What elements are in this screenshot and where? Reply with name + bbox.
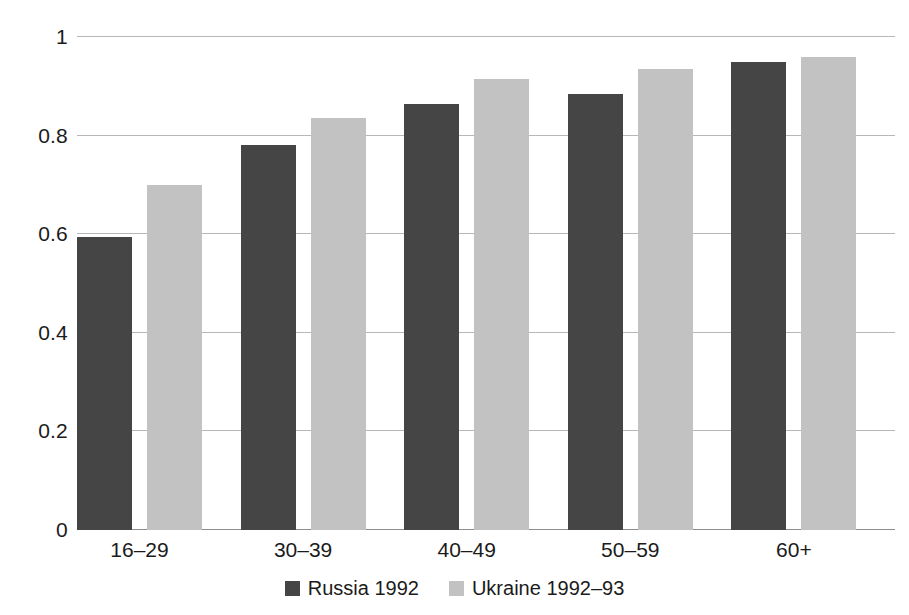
bar-russia-30-39 (241, 145, 296, 530)
bar-russia-60plus (731, 62, 786, 530)
bar-ukraine-16-29 (147, 185, 202, 530)
bar-ukraine-60plus (801, 57, 856, 530)
legend-swatch-icon-russia (285, 581, 300, 596)
y-tick-label: 0.8 (6, 124, 68, 145)
y-tick-label: 0.4 (6, 321, 68, 342)
y-tick-label: 0.2 (6, 420, 68, 441)
legend-label-ukraine: Ukraine 1992–93 (472, 578, 624, 598)
bar-ukraine-30-39 (311, 118, 366, 530)
legend-label-russia: Russia 1992 (308, 578, 419, 598)
gridline-1 (77, 36, 895, 37)
x-tick-label-50-59: 50–59 (601, 537, 659, 563)
legend-item-ukraine: Ukraine 1992–93 (449, 578, 624, 598)
bar-russia-40-49 (404, 104, 459, 530)
x-tick-label-16-29: 16–29 (110, 537, 168, 563)
x-axis-tick-labels: 16–29 30–39 40–49 50–59 60+ (77, 537, 895, 569)
bar-ukraine-40-49 (474, 79, 529, 530)
legend-swatch-icon-ukraine (449, 581, 464, 596)
y-tick-label: 0 (6, 519, 68, 540)
bar-chart: 1 0.8 0.6 0.4 0.2 0 16–29 30–39 40–49 (0, 0, 909, 615)
bar-ukraine-50-59 (638, 69, 693, 530)
y-axis-tick-labels: 1 0.8 0.6 0.4 0.2 0 (0, 36, 68, 530)
x-tick-label-30-39: 30–39 (274, 537, 332, 563)
x-tick-label-60plus: 60+ (776, 537, 812, 563)
y-tick-label: 0.6 (6, 223, 68, 244)
chart-legend: Russia 1992 Ukraine 1992–93 (0, 578, 909, 598)
y-tick-label: 1 (6, 26, 68, 47)
bar-russia-50-59 (568, 94, 623, 530)
bar-russia-16-29 (77, 237, 132, 530)
plot-area (77, 36, 895, 530)
x-tick-label-40-49: 40–49 (437, 537, 495, 563)
legend-item-russia: Russia 1992 (285, 578, 419, 598)
